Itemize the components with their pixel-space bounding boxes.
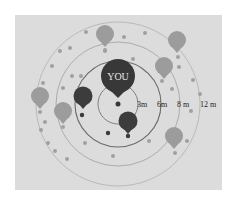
balloon-you: YOU <box>101 59 135 107</box>
balloon-top <box>96 25 114 52</box>
ring-label-6m: 6m <box>157 100 168 109</box>
near-dots <box>80 113 110 135</box>
ring-labels: 3m 6m 8 m 12 m <box>137 100 217 109</box>
ring-label-3m: 3m <box>137 100 148 109</box>
balloon-near-left <box>74 87 93 110</box>
balloon-left <box>31 87 49 109</box>
balloon-near-bottom <box>119 112 138 139</box>
ring-label-8m: 8 m <box>177 100 190 109</box>
you-label: YOU <box>107 71 129 82</box>
ring-label-12m: 12 m <box>200 100 217 109</box>
proximity-diagram: YOU 3m 6m 8 m 12 m <box>0 0 233 198</box>
balloon-top-right <box>168 31 186 53</box>
balloon-right-upper <box>155 57 173 79</box>
balloon-left-lower <box>54 102 72 124</box>
balloon-right-lower <box>165 127 183 149</box>
